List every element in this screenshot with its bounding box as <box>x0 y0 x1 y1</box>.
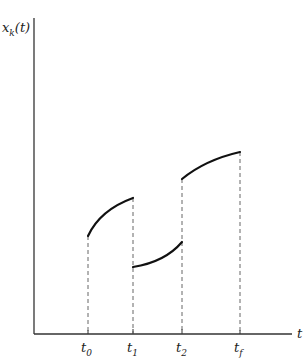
x-axis-label: t <box>297 326 302 341</box>
y-axis-label: xk(t) <box>2 20 30 38</box>
y-label-arg: (t) <box>15 20 30 35</box>
tick-label-t0: t0 <box>81 340 92 358</box>
tick-sub: 2 <box>181 348 187 358</box>
tick-label-t1: t1 <box>127 340 138 358</box>
tick-label-tf: tf <box>234 340 243 358</box>
tick-sub: 0 <box>86 348 92 358</box>
tick-sub: 1 <box>132 348 138 358</box>
curve-segment-2 <box>133 242 182 267</box>
plot-canvas <box>0 0 307 359</box>
tick-label-t2: t2 <box>176 340 187 358</box>
curve-segment-1 <box>88 198 133 236</box>
tick-sub: f <box>239 348 242 358</box>
x-label-text: t <box>297 326 302 341</box>
curve-segment-3 <box>182 152 240 179</box>
